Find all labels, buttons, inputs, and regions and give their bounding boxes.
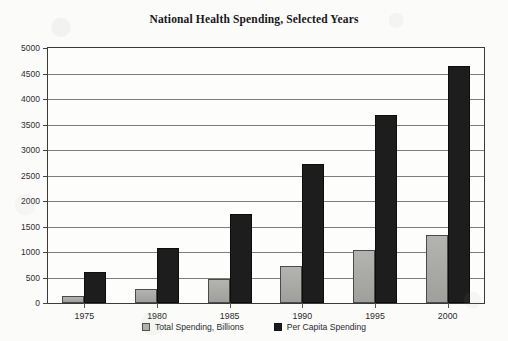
- y-axis-tick: [43, 201, 48, 202]
- x-axis-tick: [375, 303, 376, 308]
- legend-item-per-capita: Per Capita Spending: [274, 322, 366, 332]
- y-axis-tick: [43, 125, 48, 126]
- y-axis-label: 3000: [21, 145, 40, 155]
- bar-per-capita-2000: [448, 66, 470, 303]
- legend-label: Per Capita Spending: [287, 322, 366, 332]
- bar-total-spending-1990: [280, 266, 302, 303]
- x-axis-tick: [230, 303, 231, 308]
- gridline: [48, 150, 484, 151]
- y-axis-tick: [43, 74, 48, 75]
- y-axis-label: 500: [26, 273, 40, 283]
- bar-per-capita-1995: [375, 115, 397, 303]
- y-axis-tick: [43, 176, 48, 177]
- x-axis-tick: [302, 303, 303, 308]
- x-axis-label-1985: 1985: [220, 311, 240, 321]
- y-axis-tick: [43, 227, 48, 228]
- y-axis-tick: [43, 48, 48, 49]
- x-axis-label-1980: 1980: [147, 311, 167, 321]
- y-axis-label: 5000: [21, 43, 40, 53]
- y-axis-label: 2500: [21, 171, 40, 181]
- y-axis-label: 1500: [21, 222, 40, 232]
- chart-legend: Total Spending, BillionsPer Capita Spend…: [0, 322, 508, 332]
- x-axis-label-1975: 1975: [75, 311, 95, 321]
- y-axis-label: 4000: [21, 94, 40, 104]
- gridline: [48, 125, 484, 126]
- y-axis-tick: [43, 252, 48, 253]
- y-axis-label: 1000: [21, 247, 40, 257]
- y-axis-label: 2000: [21, 196, 40, 206]
- legend-label: Total Spending, Billions: [155, 322, 244, 332]
- x-axis-tick: [448, 303, 449, 308]
- y-axis-tick: [43, 278, 48, 279]
- y-axis-tick: [43, 303, 48, 304]
- gray-square-swatch: [142, 323, 150, 331]
- gridline: [48, 278, 484, 279]
- y-axis-label: 0: [35, 298, 40, 308]
- bar-total-spending-2000: [426, 235, 448, 303]
- legend-item-total-spending: Total Spending, Billions: [142, 322, 244, 332]
- x-axis-tick: [157, 303, 158, 308]
- x-axis-label-2000: 2000: [438, 311, 458, 321]
- gridline: [48, 99, 484, 100]
- y-axis-label: 3500: [21, 120, 40, 130]
- gridline: [48, 74, 484, 75]
- chart-title: National Health Spending, Selected Years: [0, 13, 508, 25]
- bar-per-capita-1975: [84, 272, 106, 303]
- bar-per-capita-1990: [302, 164, 324, 303]
- y-axis-label: 4500: [21, 69, 40, 79]
- x-axis-label-1995: 1995: [365, 311, 385, 321]
- bar-per-capita-1985: [230, 214, 252, 303]
- y-axis-tick: [43, 99, 48, 100]
- chart-page: National Health Spending, Selected Years…: [0, 0, 508, 341]
- gridline: [48, 252, 484, 253]
- gridline: [48, 227, 484, 228]
- bar-total-spending-1980: [135, 289, 157, 303]
- bar-total-spending-1995: [353, 250, 375, 303]
- x-axis-label-1990: 1990: [293, 311, 313, 321]
- x-axis-tick: [84, 303, 85, 308]
- plot-area: 0500100015002000250030003500400045005000…: [47, 47, 485, 304]
- bar-total-spending-1975: [62, 296, 84, 303]
- bar-per-capita-1980: [157, 248, 179, 303]
- gridline: [48, 176, 484, 177]
- black-square-swatch: [274, 323, 282, 331]
- gridline: [48, 201, 484, 202]
- bar-total-spending-1985: [208, 279, 230, 303]
- y-axis-tick: [43, 150, 48, 151]
